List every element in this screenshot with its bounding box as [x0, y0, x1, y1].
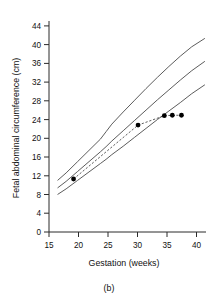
data-point-marker	[136, 123, 141, 128]
fetal-growth-chart: 0 4 8 12 16 20 24 28 32 36 40 44 15 20 2…	[0, 0, 218, 304]
x-axis-title: Gestation (weeks)	[89, 258, 160, 268]
y-tick-label: 12	[32, 172, 42, 181]
x-tick-label: 35	[162, 241, 172, 250]
y-tick-label: 32	[32, 78, 42, 87]
x-tick-label: 20	[74, 241, 84, 250]
y-axis-tick-labels: 0 4 8 12 16 20 24 28 32 36 40 44	[32, 22, 42, 237]
median-centile-curve	[58, 61, 205, 188]
x-axis-ticks	[49, 232, 197, 237]
y-tick-label: 44	[32, 22, 42, 31]
y-tick-label: 40	[32, 41, 42, 50]
data-point-marker	[179, 113, 184, 118]
y-tick-label: 28	[32, 97, 42, 106]
x-axis-tick-labels: 15 20 25 30 35 40	[44, 241, 201, 250]
data-point-marker	[162, 113, 167, 118]
y-tick-label: 20	[32, 134, 42, 143]
patient-markers	[71, 113, 184, 182]
patient-series	[71, 113, 184, 182]
data-point-marker	[170, 113, 175, 118]
y-tick-label: 8	[36, 191, 41, 200]
x-tick-label: 40	[192, 241, 202, 250]
y-axis-ticks	[44, 26, 49, 232]
x-tick-label: 30	[133, 241, 143, 250]
x-tick-label: 25	[103, 241, 113, 250]
y-axis-title: Fetal abdominal circumference (cm)	[11, 58, 21, 198]
figure-panel: 0 4 8 12 16 20 24 28 32 36 40 44 15 20 2…	[0, 0, 218, 304]
patient-dashed-line	[74, 115, 182, 179]
data-point-marker	[71, 177, 76, 182]
y-tick-label: 4	[36, 209, 41, 218]
x-tick-label: 15	[44, 241, 54, 250]
figure-caption: (b)	[104, 283, 115, 293]
y-tick-label: 36	[32, 59, 42, 68]
upper-centile-curve	[58, 38, 205, 180]
y-tick-label: 24	[32, 116, 42, 125]
lower-centile-curve	[58, 85, 205, 195]
y-tick-label: 0	[36, 228, 41, 237]
y-tick-label: 16	[32, 153, 42, 162]
